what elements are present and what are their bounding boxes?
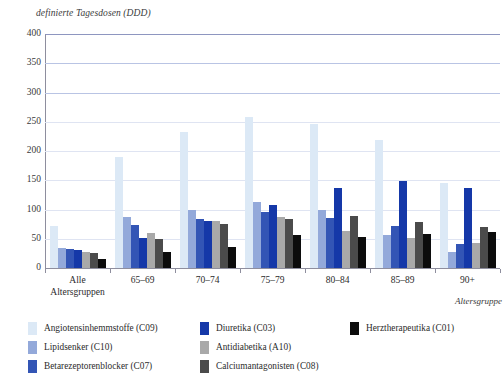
x-tick-mark	[110, 269, 111, 273]
bar	[228, 247, 236, 268]
y-tick-label: 350	[1, 57, 41, 67]
bar-group	[240, 34, 305, 268]
bar	[488, 232, 496, 268]
bar-group	[435, 34, 500, 268]
bar	[123, 217, 131, 268]
y-tick-label: 150	[1, 174, 41, 184]
legend-swatch	[28, 341, 37, 354]
x-axis-label: 90+	[435, 274, 500, 298]
bar	[448, 252, 456, 268]
bar	[456, 244, 464, 268]
y-tick-label: 250	[1, 116, 41, 126]
legend-item[interactable]: Betarezeptorenblocker (C07)	[28, 360, 200, 372]
bar	[480, 227, 488, 268]
legend-item[interactable]: Angiotensinhemmstoffe (C09)	[28, 322, 200, 334]
x-axis-title: Altersgruppe	[455, 296, 502, 306]
bar	[82, 252, 90, 268]
bar	[74, 250, 82, 268]
legend-label: Antidiabetika (A10)	[216, 342, 291, 352]
x-tick-mark	[435, 269, 436, 273]
legend-item[interactable]: Antidiabetika (A10)	[200, 341, 350, 353]
y-tick-label: 300	[1, 87, 41, 97]
x-tick-mark	[45, 269, 46, 273]
bar	[350, 216, 358, 268]
legend-item[interactable]: Diuretika (C03)	[200, 322, 350, 334]
bar	[98, 259, 106, 268]
legend-swatch	[200, 360, 209, 373]
x-tick-mark	[175, 269, 176, 273]
bar	[415, 222, 423, 268]
x-axis-label: 65–69	[110, 274, 175, 298]
bar	[58, 248, 66, 268]
bar	[472, 243, 480, 268]
legend-label: Angiotensinhemmstoffe (C09)	[44, 323, 158, 333]
bar	[66, 249, 74, 268]
x-axis-labels: AlleAltersgruppen65–6970–7475–7980–8485–…	[45, 274, 500, 298]
bar	[196, 219, 204, 268]
bar-group	[110, 34, 175, 268]
bar	[277, 217, 285, 268]
bar	[188, 210, 196, 269]
legend-label: Herztherapeutika (C01)	[366, 323, 454, 333]
chart-legend: Angiotensinhemmstoffe (C09)Lipidsenker (…	[28, 322, 498, 378]
bar	[269, 205, 277, 268]
legend-swatch	[28, 322, 37, 335]
legend-label: Calciumantagonisten (C08)	[216, 361, 319, 371]
legend-label: Diuretika (C03)	[216, 323, 275, 333]
y-tick-label: 100	[1, 204, 41, 214]
bar	[383, 235, 391, 268]
legend-swatch	[28, 360, 37, 373]
legend-item[interactable]: Calciumantagonisten (C08)	[200, 360, 350, 372]
bar	[155, 239, 163, 268]
bar-group	[370, 34, 435, 268]
bar	[375, 140, 383, 268]
bar	[147, 233, 155, 268]
legend-label: Lipidsenker (C10)	[44, 342, 112, 352]
y-axis-ticks: 050100150200250300350400	[0, 34, 41, 268]
bar	[180, 132, 188, 268]
legend-swatch	[200, 322, 209, 335]
legend-swatch	[200, 341, 209, 354]
x-axis-line	[45, 268, 500, 269]
y-axis-title: definierte Tagesdosen (DDD)	[36, 8, 151, 18]
bar	[464, 188, 472, 268]
bar	[326, 218, 334, 268]
bar	[440, 183, 448, 268]
y-tick-label: 0	[1, 262, 41, 272]
bar	[358, 237, 366, 268]
bar	[391, 226, 399, 268]
legend-column: Diuretika (C03)Antidiabetika (A10)Calciu…	[200, 322, 350, 378]
bar	[163, 252, 171, 268]
x-tick-mark	[240, 269, 241, 273]
bar	[245, 117, 253, 268]
bar	[285, 219, 293, 268]
legend-item[interactable]: Herztherapeutika (C01)	[350, 322, 498, 334]
bar	[261, 212, 269, 268]
bar	[310, 124, 318, 268]
bar-group	[305, 34, 370, 268]
bar	[212, 221, 220, 268]
legend-item[interactable]: Lipidsenker (C10)	[28, 341, 200, 353]
bar-group	[175, 34, 240, 268]
bar	[204, 221, 212, 268]
bar	[139, 238, 147, 268]
bar	[90, 253, 98, 268]
bar	[115, 157, 123, 268]
legend-swatch	[350, 322, 359, 335]
bar-group	[45, 34, 110, 268]
chart-container: definierte Tagesdosen (DDD) 050100150200…	[0, 0, 504, 383]
legend-column: Angiotensinhemmstoffe (C09)Lipidsenker (…	[28, 322, 200, 378]
bar	[423, 234, 431, 268]
legend-label: Betarezeptorenblocker (C07)	[44, 361, 152, 371]
bar	[399, 181, 407, 268]
bar	[220, 224, 228, 268]
legend-column: Herztherapeutika (C01)	[350, 322, 498, 378]
x-axis-label: 75–79	[240, 274, 305, 298]
x-axis-label: 80–84	[305, 274, 370, 298]
bar	[407, 238, 415, 268]
bar-groups	[45, 34, 500, 268]
bar	[334, 188, 342, 268]
bar	[342, 231, 350, 268]
bar	[293, 235, 301, 268]
x-axis-label: 85–89	[370, 274, 435, 298]
